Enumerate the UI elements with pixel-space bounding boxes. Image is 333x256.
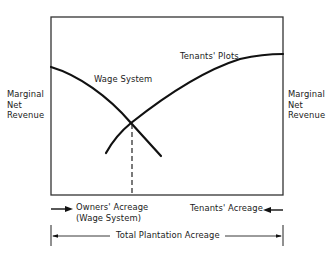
tenants-arrow-head-icon bbox=[263, 207, 271, 213]
owners-arrow-head-icon bbox=[65, 206, 73, 212]
owners-acreage-label: Owners' Acreage (Wage System) bbox=[76, 202, 148, 223]
owners-acreage-line2: (Wage System) bbox=[76, 213, 148, 224]
right-axis-label-line1: Marginal bbox=[288, 89, 325, 100]
right-axis-label-line2: Net bbox=[288, 100, 325, 111]
left-axis-label-line3: Revenue bbox=[7, 110, 44, 121]
left-axis-label-line2: Net bbox=[7, 100, 44, 111]
left-axis-label: Marginal Net Revenue bbox=[7, 89, 44, 121]
plantation-acreage-diagram bbox=[0, 0, 333, 256]
tenants-acreage-label: Tenants' Acreage bbox=[190, 203, 263, 214]
total-plantation-acreage-label: Total Plantation Acreage bbox=[116, 230, 220, 241]
tenants-plots-label: Tenants' Plots bbox=[180, 51, 239, 62]
right-axis-label-line3: Revenue bbox=[288, 110, 325, 121]
right-axis-label: Marginal Net Revenue bbox=[288, 89, 325, 121]
tenants-plots-curve bbox=[106, 54, 283, 153]
owners-acreage-line1: Owners' Acreage bbox=[76, 202, 148, 213]
total-right-arrowhead-icon bbox=[276, 234, 282, 237]
left-axis-label-line1: Marginal bbox=[7, 89, 44, 100]
total-left-arrowhead-icon bbox=[52, 234, 58, 237]
plot-frame bbox=[51, 17, 283, 195]
wage-system-label: Wage System bbox=[94, 74, 152, 85]
